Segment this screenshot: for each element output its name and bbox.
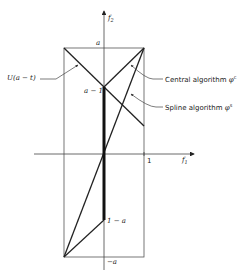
x-axis-label-sub: 1 (185, 159, 188, 165)
diagram-svg (0, 0, 247, 276)
central-annotation-text: Central algorithm (165, 76, 227, 84)
lower-connector-line (64, 220, 104, 257)
spline-annotation-text: Spline algorithm (165, 104, 223, 112)
diagram-canvas: f2 f1 1 a a − 1 1 − a −a U(a − t) Centra… (0, 0, 247, 276)
x-axis-label: f1 (182, 157, 188, 165)
spline-annotation: Spline algorithm φs (165, 103, 232, 112)
u-leader (40, 65, 78, 79)
y-axis-label-sub: 2 (111, 17, 114, 23)
central-sup: c (234, 74, 237, 80)
x-tick-label-1: 1 (147, 158, 151, 165)
label-minus-a: −a (107, 259, 117, 266)
central-annotation: Central algorithm φc (165, 75, 236, 84)
u-annotation: U(a − t) (7, 75, 36, 82)
spline-leader (131, 94, 163, 107)
label-a-top: a (96, 40, 100, 47)
y-axis-label: f2 (108, 15, 114, 23)
spline-sup: s (230, 102, 233, 108)
label-1-minus-a: 1 − a (107, 218, 126, 225)
label-a-minus-1: a − 1 (84, 88, 103, 95)
central-algorithm-line (104, 48, 144, 87)
central-leader (131, 65, 163, 79)
